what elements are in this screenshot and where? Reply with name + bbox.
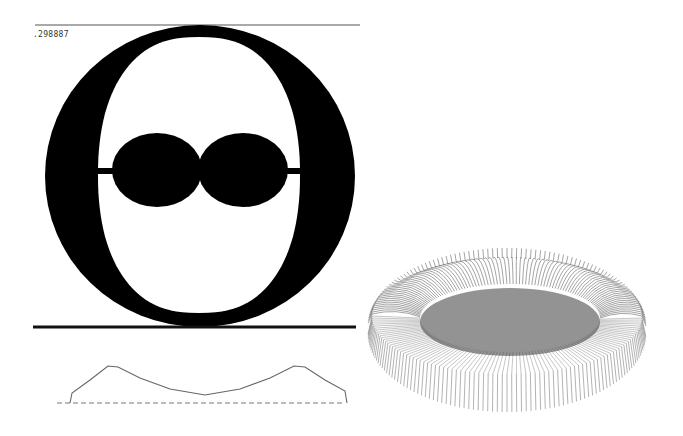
figure-canvas: [0, 0, 683, 436]
lobe-neck: [282, 168, 302, 174]
lobe-right: [198, 133, 288, 207]
lobe-left: [112, 133, 202, 207]
lobe-neck: [96, 168, 118, 174]
profile-line: [70, 366, 347, 403]
inner-bowl: [420, 288, 600, 356]
cross-section: [33, 25, 360, 327]
surface-plot: [368, 248, 646, 412]
profile-curve: [57, 366, 347, 403]
